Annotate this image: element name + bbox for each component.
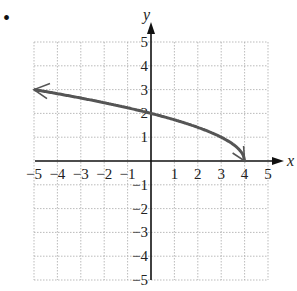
x-tick-label: −5 — [26, 166, 42, 182]
y-tick-label: −4 — [132, 248, 148, 264]
y-tick-label: −1 — [132, 177, 148, 193]
x-tick-label: 3 — [217, 166, 225, 182]
y-tick-label: 1 — [141, 129, 149, 145]
x-tick-label: −4 — [49, 166, 65, 182]
x-tick-label: 5 — [264, 166, 272, 182]
y-axis-label: y — [141, 6, 151, 24]
y-tick-label: −3 — [132, 224, 148, 240]
y-axis — [147, 22, 155, 280]
curve — [34, 84, 245, 161]
y-tick-label: −5 — [132, 272, 148, 288]
graph: x y −5−4−3−2−112345 54321−1−2−3−4−5 — [0, 0, 297, 291]
x-tick-label: −3 — [73, 166, 89, 182]
x-axis-label: x — [286, 152, 294, 169]
y-tick-label: 3 — [141, 82, 149, 98]
y-tick-label: 5 — [141, 34, 149, 50]
x-tick-label: 1 — [171, 166, 179, 182]
x-tick-label: 4 — [241, 166, 249, 182]
x-tick-labels: −5−4−3−2−112345 — [26, 166, 272, 182]
x-axis — [35, 157, 284, 165]
x-tick-label: 2 — [194, 166, 202, 182]
x-tick-label: −2 — [96, 166, 112, 182]
y-tick-label: 4 — [141, 58, 149, 74]
y-tick-label: −2 — [132, 201, 148, 217]
